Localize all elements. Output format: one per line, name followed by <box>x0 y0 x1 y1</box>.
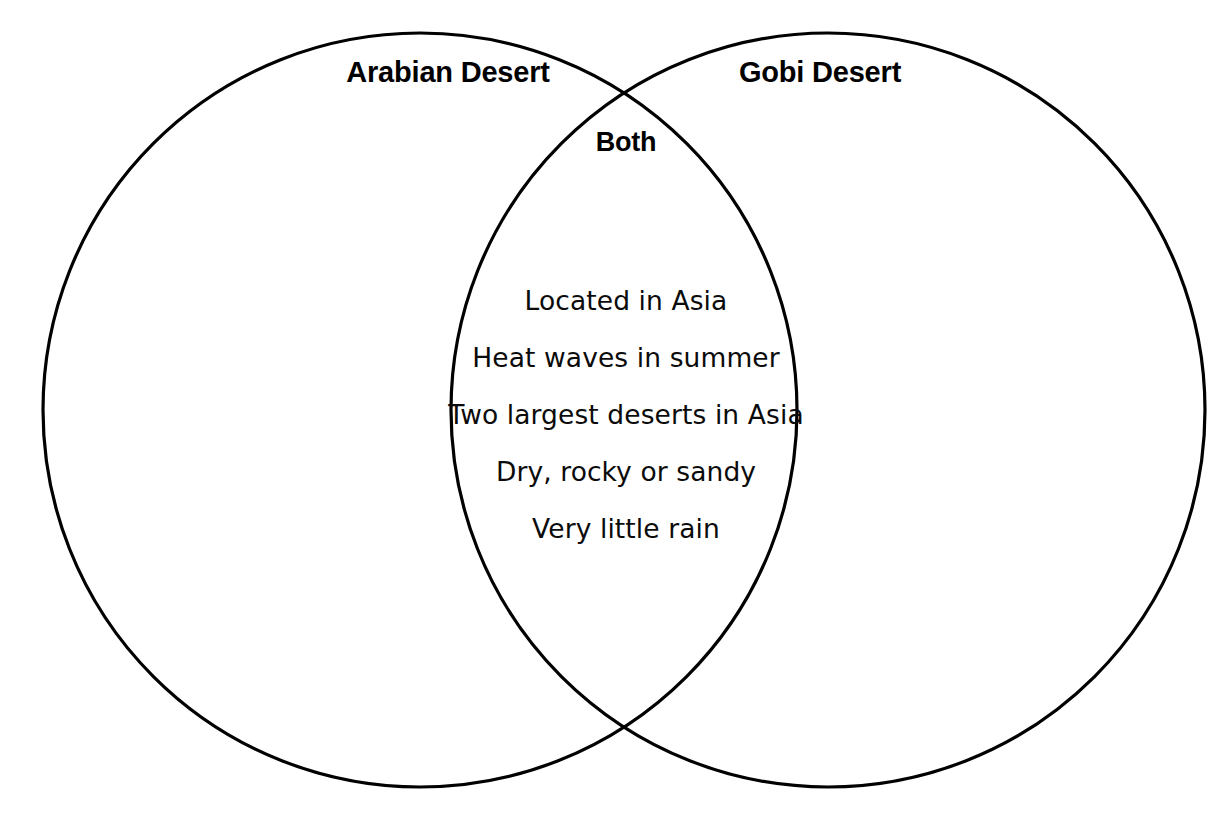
right-set-label: Gobi Desert <box>739 56 901 89</box>
list-item: Heat waves in summer <box>472 329 779 386</box>
left-set-label: Arabian Desert <box>346 56 550 89</box>
list-item: Very little rain <box>532 500 720 557</box>
list-item: Two largest deserts in Asia <box>448 386 803 443</box>
intersection-item-list: Located in Asia Heat waves in summer Two… <box>391 272 861 557</box>
intersection-label: Both <box>596 127 657 158</box>
list-item: Located in Asia <box>525 272 728 329</box>
venn-diagram-canvas: Arabian Desert Gobi Desert Both Located … <box>0 0 1230 826</box>
list-item: Dry, rocky or sandy <box>496 443 756 500</box>
